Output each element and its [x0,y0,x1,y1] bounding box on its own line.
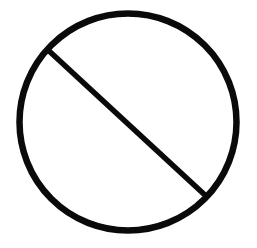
prohibited-icon [0,0,257,248]
prohibition-sign: Prohibition sign (circle with diagonal s… [0,0,257,248]
